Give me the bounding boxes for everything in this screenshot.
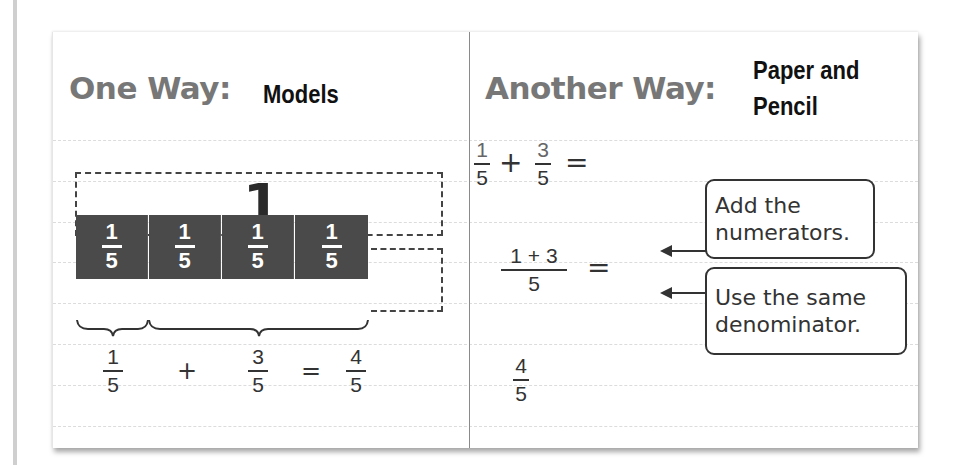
- step3-result: 45: [513, 355, 529, 405]
- equation-term2: 35: [248, 346, 268, 396]
- models-subheading: Models: [263, 76, 339, 112]
- worked-example-card: One Way: Models 1 15 15 15 15 15 + 35 =: [52, 32, 918, 448]
- paper-pencil-subheading: Paper and Pencil: [753, 52, 859, 124]
- tile-numerator: 1: [222, 221, 293, 243]
- tile-denominator: 5: [222, 250, 293, 272]
- callout-line: Use the same: [715, 284, 897, 311]
- tile-numerator: 1: [295, 221, 368, 243]
- equation-term1: 15: [103, 346, 123, 396]
- page-margin-bar: [13, 0, 17, 465]
- another-way-heading: Another Way:: [485, 70, 716, 106]
- step2-fraction: 1 + 35: [501, 245, 567, 295]
- subheading-line2: Pencil: [753, 88, 859, 124]
- step1-plus: +: [499, 151, 522, 175]
- ruled-line: [53, 426, 918, 427]
- fraction-tile: 15: [149, 215, 221, 279]
- fraction-tile: 15: [295, 215, 368, 279]
- equals-sign: =: [301, 359, 321, 383]
- callout-line: Add the: [715, 192, 865, 219]
- tile-numerator: 1: [76, 221, 147, 243]
- grouping-braces: [76, 318, 371, 344]
- callout-line: numerators.: [715, 219, 865, 246]
- one-way-heading: One Way:: [69, 70, 231, 106]
- fraction-tile: 15: [76, 215, 148, 279]
- step1-equals: =: [565, 151, 588, 175]
- plus-sign: +: [177, 359, 197, 383]
- callout-add-numerators: Add the numerators.: [705, 179, 875, 259]
- subheading-line1: Paper and: [753, 52, 859, 88]
- tile-denominator: 5: [76, 250, 147, 272]
- tile-denominator: 5: [149, 250, 220, 272]
- arrow-to-numerators: [670, 250, 710, 252]
- step1-term2: 35: [535, 139, 551, 189]
- tile-denominator: 5: [295, 250, 368, 272]
- panel-divider: [469, 32, 470, 448]
- callout-same-denominator: Use the same denominator.: [705, 267, 907, 355]
- ruled-line: [53, 385, 918, 386]
- step1-term1: 15: [474, 139, 490, 189]
- arrow-to-denominator: [670, 292, 710, 294]
- equation-result: 45: [346, 346, 366, 396]
- fraction-tile: 15: [222, 215, 294, 279]
- step2-equals: =: [587, 256, 610, 280]
- callout-line: denominator.: [715, 311, 897, 338]
- tile-numerator: 1: [149, 221, 220, 243]
- empty-fifth-dashed-box: [371, 248, 443, 312]
